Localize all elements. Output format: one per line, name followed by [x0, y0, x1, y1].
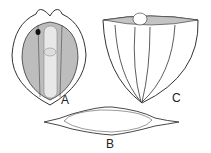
diagram-canvas — [0, 0, 211, 153]
panel-a-drawing — [12, 10, 86, 106]
eyespot — [36, 29, 41, 35]
label-c: C — [172, 92, 181, 104]
panel-c-drawing — [103, 13, 198, 103]
label-a: A — [61, 94, 69, 106]
panel-b-drawing — [44, 107, 179, 135]
label-b: B — [106, 138, 114, 150]
